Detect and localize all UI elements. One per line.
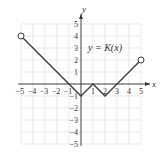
svg-text:−2: −2 — [69, 104, 78, 113]
svg-text:1: 1 — [91, 87, 95, 96]
function-label: y = K(x) — [87, 42, 123, 54]
svg-text:4: 4 — [127, 87, 131, 96]
svg-text:−3: −3 — [40, 87, 49, 96]
svg-text:5: 5 — [74, 20, 78, 29]
function-graph: −5−4−3−2−11234554321−1−2−3−4−5 y x y = K… — [0, 0, 164, 152]
svg-text:3: 3 — [115, 87, 119, 96]
svg-text:3: 3 — [74, 44, 78, 53]
axes — [18, 14, 150, 146]
svg-text:1: 1 — [74, 68, 78, 77]
svg-text:−2: −2 — [52, 87, 61, 96]
svg-text:4: 4 — [74, 32, 78, 41]
y-axis-label: y — [81, 4, 86, 14]
svg-text:−4: −4 — [28, 87, 37, 96]
x-axis-label: x — [151, 79, 156, 89]
tick-labels: −5−4−3−2−11234554321−1−2−3−4−5 — [16, 20, 143, 149]
svg-text:−1: −1 — [69, 92, 78, 101]
svg-text:−3: −3 — [69, 116, 78, 125]
svg-text:−5: −5 — [16, 87, 25, 96]
svg-text:5: 5 — [139, 87, 143, 96]
svg-text:2: 2 — [74, 56, 78, 65]
svg-text:−5: −5 — [69, 140, 78, 149]
svg-text:−4: −4 — [69, 128, 78, 137]
